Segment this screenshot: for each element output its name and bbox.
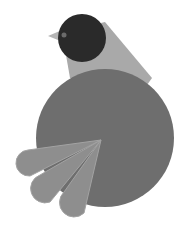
bird-eye xyxy=(62,33,67,38)
bird-head xyxy=(58,14,106,62)
bird-illustration xyxy=(0,0,191,235)
bird-tail xyxy=(16,140,101,217)
